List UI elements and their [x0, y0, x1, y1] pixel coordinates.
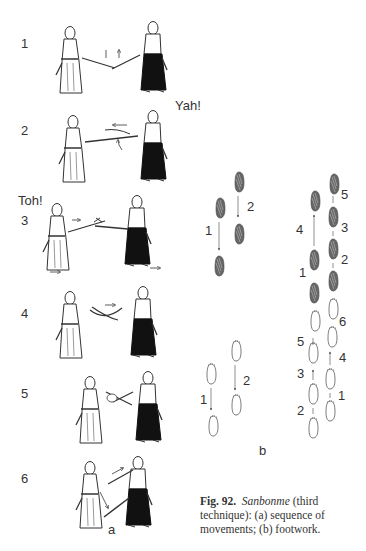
- fw-label-outline-right-6: 6: [339, 314, 346, 329]
- footprint-diagrams: [0, 0, 366, 551]
- fw-label-outline-right-4: 4: [339, 350, 346, 365]
- fw-label-outline-left-2: 2: [243, 373, 250, 388]
- figure-caption: Fig. 92. Sanbonme (third technique): (a)…: [200, 494, 366, 536]
- fw-label-outline-right-5: 5: [297, 334, 304, 349]
- fw-label-shaded-left-1: 1: [205, 223, 212, 238]
- fw-label-shaded-right-1: 1: [299, 265, 306, 280]
- fw-label-outline-right-2: 2: [297, 403, 304, 418]
- panel-label-b: b: [259, 443, 266, 458]
- fw-label-shaded-right-3: 3: [341, 220, 348, 235]
- technique-name: Sanbonme: [242, 495, 290, 507]
- fw-label-shaded-right-5: 5: [341, 187, 348, 202]
- fw-label-outline-right-1: 1: [338, 388, 345, 403]
- fw-label-outline-left-1: 1: [200, 392, 207, 407]
- fw-label-outline-right-3: 3: [297, 366, 304, 381]
- fw-label-shaded-right-4: 4: [296, 222, 303, 237]
- fw-label-shaded-left-2: 2: [247, 199, 254, 214]
- figure-number: Fig. 92.: [200, 495, 236, 507]
- fw-label-shaded-right-2: 2: [341, 252, 348, 267]
